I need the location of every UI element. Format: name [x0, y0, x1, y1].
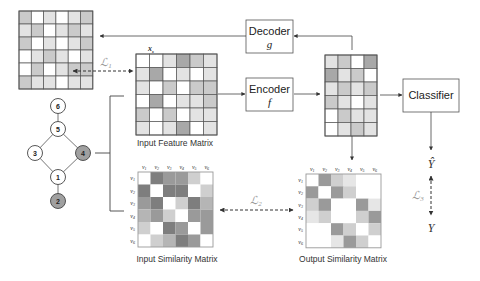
- matrix-cell: [177, 81, 191, 95]
- matrix-cell: [151, 185, 164, 198]
- matrix-cell: [163, 54, 177, 68]
- matrix-cell: [369, 211, 382, 223]
- matrix-cell: [356, 174, 369, 186]
- matrix-cell: [188, 210, 201, 223]
- column-label: v1: [310, 166, 315, 173]
- matrix-cell: [351, 55, 364, 69]
- column-label: v3: [335, 166, 340, 173]
- matrix-cell: [344, 186, 357, 198]
- ground-truth-y: Y: [428, 221, 436, 235]
- matrix-cell: [68, 11, 80, 24]
- matrix-cell: [31, 37, 43, 50]
- column-label: v4: [179, 164, 184, 171]
- row-label: v2: [298, 189, 303, 196]
- matrix-cell: [331, 211, 344, 223]
- matrix-cell: [136, 122, 150, 136]
- matrix-cell: [306, 174, 319, 186]
- matrix-cell: [163, 122, 177, 136]
- matrix-cell: [204, 81, 218, 95]
- matrix-cell: [306, 211, 319, 223]
- matrix-cell: [331, 199, 344, 211]
- matrix-cell: [325, 82, 338, 96]
- matrix-cell: [351, 96, 364, 110]
- matrix-cell: [331, 174, 344, 186]
- matrix-cell: [56, 37, 68, 50]
- matrix-cell: [151, 222, 164, 235]
- matrix-cell: [201, 210, 214, 223]
- matrix-cell: [319, 211, 332, 223]
- matrix-cell: [176, 185, 189, 198]
- svg-text:3: 3: [33, 150, 37, 157]
- latent-to-decoder-arrow: [294, 36, 352, 50]
- graph-node-3: 3: [28, 146, 43, 161]
- svg-text:4: 4: [81, 150, 85, 157]
- matrix-cell: [31, 63, 43, 76]
- matrix-cell: [81, 63, 93, 76]
- matrix-cell: [163, 210, 176, 223]
- matrix-cell: [44, 63, 56, 76]
- matrix-cell: [151, 235, 164, 248]
- matrix-cell: [163, 172, 176, 185]
- row-label: v3: [130, 200, 135, 207]
- matrix-cell: [68, 37, 80, 50]
- matrix-cell: [150, 95, 164, 109]
- matrix-cell: [163, 108, 177, 122]
- matrix-cell: [19, 50, 31, 63]
- feature-matrix-label: xs: [147, 44, 154, 54]
- matrix-cell: [68, 76, 80, 89]
- row-label: v1: [130, 175, 135, 182]
- matrix-cell: [356, 186, 369, 198]
- row-label: v6: [298, 239, 303, 246]
- matrix-cell: [177, 122, 191, 136]
- row-label: v3: [298, 202, 303, 209]
- matrix-cell: [204, 108, 218, 122]
- matrix-cell: [56, 76, 68, 89]
- matrix-cell: [31, 24, 43, 37]
- loss-l2-label: ℒ2: [250, 194, 262, 208]
- matrix-cell: [319, 199, 332, 211]
- matrix-cell: [369, 223, 382, 235]
- row-label: v5: [298, 226, 303, 233]
- matrix-cell: [68, 63, 80, 76]
- matrix-cell: [325, 69, 338, 83]
- matrix-cell: [163, 81, 177, 95]
- graph-node-5: 5: [51, 122, 66, 137]
- matrix-cell: [344, 199, 357, 211]
- latent-representation-matrix: [325, 55, 377, 136]
- matrix-cell: [19, 76, 31, 89]
- matrix-cell: [356, 211, 369, 223]
- matrix-cell: [306, 236, 319, 248]
- decoder-var: g: [267, 38, 273, 50]
- matrix-cell: [306, 186, 319, 198]
- column-label: v1: [142, 164, 147, 171]
- loss-l3-label: ℒ3: [412, 189, 424, 203]
- svg-text:5: 5: [56, 126, 60, 133]
- matrix-cell: [138, 222, 151, 235]
- reconstructed-feature-matrix: [19, 11, 93, 89]
- matrix-cell: [163, 68, 177, 82]
- graph-node-2: 2: [51, 194, 66, 209]
- matrix-cell: [151, 197, 164, 210]
- matrix-cell: [56, 50, 68, 63]
- matrix-cell: [31, 76, 43, 89]
- matrix-cell: [201, 197, 214, 210]
- row-label: v4: [298, 214, 303, 221]
- matrix-cell: [188, 222, 201, 235]
- architecture-diagram: v1v1v2v2v3v3v4v4v5v5v6v6 v1v1v2v2v3v3v4v…: [0, 0, 480, 281]
- matrix-cell: [81, 11, 93, 24]
- svg-text:6: 6: [56, 103, 60, 110]
- row-label: v1: [298, 177, 303, 184]
- matrix-cell: [319, 236, 332, 248]
- matrix-cell: [163, 222, 176, 235]
- matrix-cell: [306, 199, 319, 211]
- matrix-cell: [364, 96, 377, 110]
- matrix-cell: [369, 174, 382, 186]
- loss-l1-label: ℒ1: [100, 56, 112, 70]
- matrix-cell: [369, 186, 382, 198]
- matrix-cell: [56, 24, 68, 37]
- column-label: v3: [167, 164, 172, 171]
- matrix-cell: [364, 69, 377, 83]
- matrix-cell: [188, 235, 201, 248]
- matrix-cell: [319, 223, 332, 235]
- matrix-cell: [150, 81, 164, 95]
